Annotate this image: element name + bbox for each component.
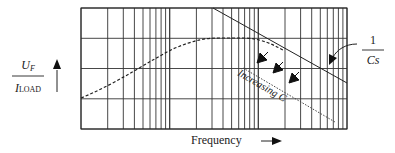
shift-arrow-icon: [289, 72, 299, 83]
asymptote-label-denominator: Cs: [367, 53, 380, 67]
y-label-numerator: UF: [21, 58, 35, 73]
label-pointer-curve: [333, 44, 357, 57]
x-axis-label: Frequency: [191, 133, 242, 147]
x-axis-arrow-icon: [272, 137, 282, 145]
shift-arrows: [257, 52, 299, 83]
asymptote-label-numerator: 1: [370, 33, 376, 47]
impedance-curve: [81, 38, 283, 98]
y-axis-arrow-icon: [53, 59, 61, 69]
y-label-denominator: ILOAD: [14, 81, 41, 95]
log-grid: [81, 8, 347, 129]
shift-arrow-icon: [273, 62, 283, 73]
impedance-diagram: 1 Cs Increasing C UF ILOAD Frequency: [0, 0, 395, 153]
